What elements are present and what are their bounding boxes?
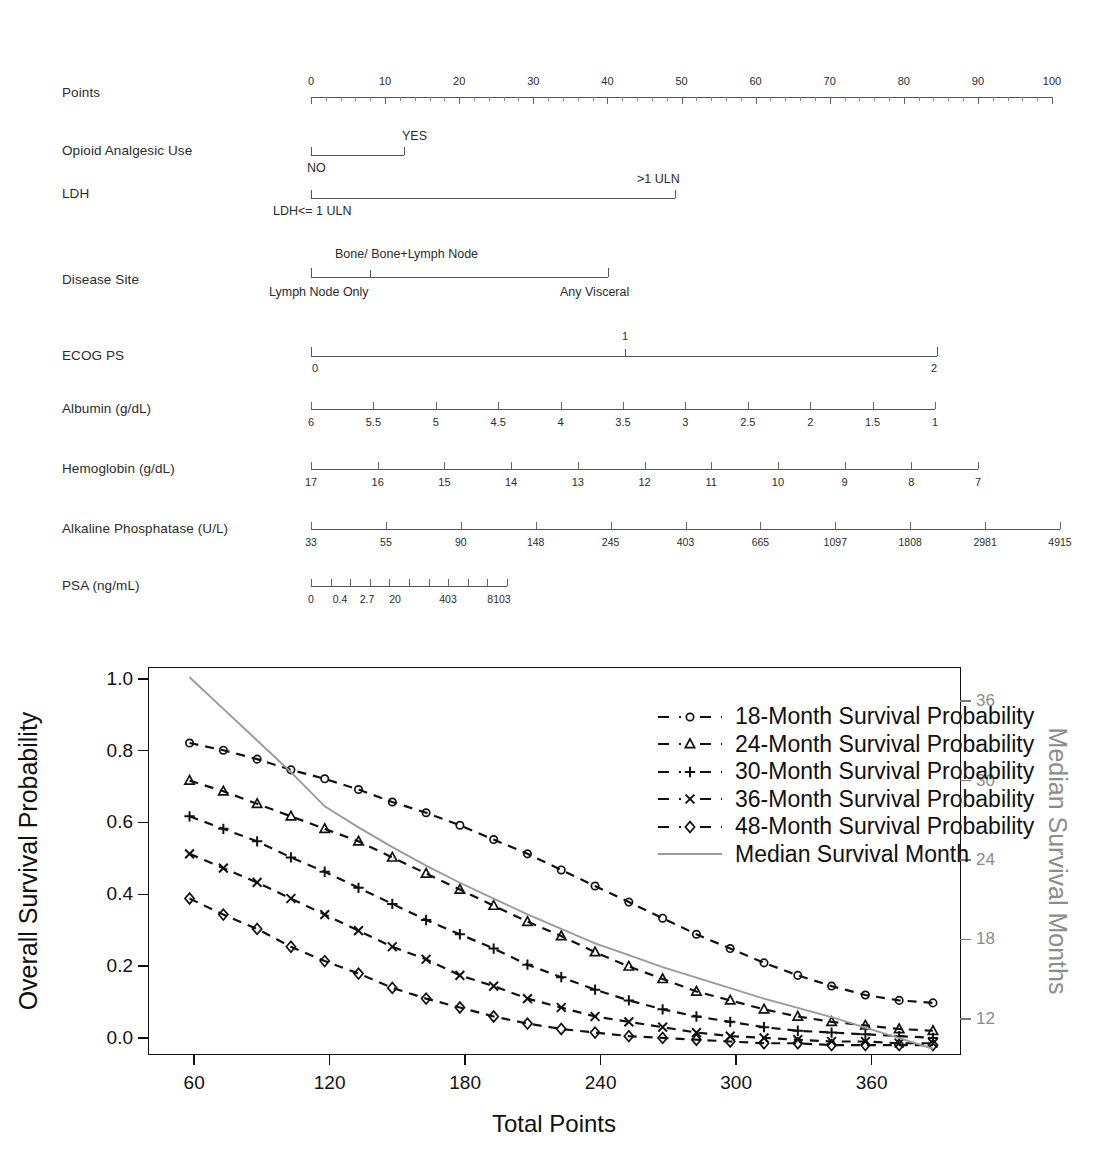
ecog-ps-label-0: 0 xyxy=(312,362,318,374)
points-minor-tick xyxy=(1022,97,1023,101)
data-point-plus xyxy=(455,929,465,939)
hemoglobin-tick-label: 15 xyxy=(438,476,450,488)
alp-tick-label: 55 xyxy=(380,536,392,548)
y-tick-label: 0.0 xyxy=(107,1027,133,1049)
legend-item[interactable]: 24-Month Survival Probability xyxy=(654,731,1034,759)
data-point-triangle xyxy=(320,824,329,833)
albumin-tick-label: 4 xyxy=(558,416,564,428)
opioid-axis-line xyxy=(311,155,404,156)
data-point-triangle xyxy=(624,961,633,970)
x-tick-label: 180 xyxy=(449,1072,481,1094)
points-minor-tick xyxy=(355,97,356,101)
data-point-cross xyxy=(455,971,464,980)
legend-item[interactable]: 30-Month Survival Probability xyxy=(654,758,1034,786)
albumin-tick xyxy=(685,402,686,409)
data-point-plus xyxy=(387,899,397,909)
opioid-label-yes: YES xyxy=(402,129,427,143)
albumin-tick xyxy=(748,402,749,409)
legend-marker-triangle-icon xyxy=(654,733,726,755)
points-minor-tick xyxy=(504,97,505,101)
hemoglobin-tick xyxy=(578,462,579,469)
hemoglobin-tick-label: 16 xyxy=(372,476,384,488)
nomogram-panel: Points Opioid Analgesic Use LDH Disease … xyxy=(0,0,1113,640)
points-minor-tick xyxy=(948,97,949,101)
data-point-plus xyxy=(488,943,498,953)
legend-item[interactable]: 36-Month Survival Probability xyxy=(654,786,1034,814)
albumin-tick xyxy=(373,402,374,409)
legend-label: 18-Month Survival Probability xyxy=(735,703,1034,730)
y-tick-label: 0.8 xyxy=(107,740,133,762)
data-point-cross xyxy=(489,982,498,991)
ldh-right-cap xyxy=(675,190,676,198)
points-minor-tick xyxy=(963,97,964,101)
data-point-plus xyxy=(793,1026,803,1036)
ldh-label-low: LDH<= 1 ULN xyxy=(273,204,352,218)
legend-label: 36-Month Survival Probability xyxy=(735,786,1034,813)
points-minor-tick xyxy=(919,97,920,101)
legend-item[interactable]: 48-Month Survival Probability xyxy=(654,813,1034,841)
points-minor-tick xyxy=(1008,97,1009,101)
y-tick xyxy=(138,894,149,896)
alp-tick-label: 90 xyxy=(455,536,467,548)
hemoglobin-tick-label: 13 xyxy=(572,476,584,488)
x-tick-label: 60 xyxy=(184,1072,205,1094)
data-point-triangle xyxy=(726,995,735,1004)
opioid-label-no: NO xyxy=(307,161,326,175)
psa-tick xyxy=(389,579,390,586)
y-tick xyxy=(138,1037,149,1039)
data-point-plus xyxy=(725,1017,735,1027)
data-point-triangle xyxy=(489,901,498,910)
albumin-tick xyxy=(498,402,499,409)
hemoglobin-tick xyxy=(711,462,712,469)
albumin-tick-label: 1.5 xyxy=(865,416,880,428)
points-minor-tick xyxy=(1037,97,1038,101)
y2-tick xyxy=(960,700,971,702)
data-point-plus xyxy=(353,883,363,893)
points-minor-tick xyxy=(430,97,431,101)
alp-tick xyxy=(386,522,387,529)
points-minor-tick xyxy=(785,97,786,101)
x-tick-label: 300 xyxy=(720,1072,752,1094)
data-point-cross xyxy=(320,910,329,919)
y-tick xyxy=(138,822,149,824)
data-point-diamond xyxy=(354,968,363,979)
alp-tick-label: 33 xyxy=(305,536,317,548)
opioid-left-cap xyxy=(311,147,312,155)
points-minor-tick xyxy=(859,97,860,101)
alp-tick xyxy=(835,522,836,529)
points-minor-tick xyxy=(652,97,653,101)
legend-label: Median Survival Month xyxy=(735,841,969,868)
albumin-axis-line xyxy=(311,409,935,410)
alp-tick-label: 148 xyxy=(527,536,545,548)
points-major-tick xyxy=(830,97,831,104)
albumin-tick-label: 5.5 xyxy=(366,416,381,428)
data-point-plus xyxy=(252,836,262,846)
psa-tick xyxy=(370,579,371,586)
y-tick xyxy=(138,750,149,752)
data-point-triangle xyxy=(286,811,295,820)
psa-tick xyxy=(350,579,351,586)
points-minor-tick xyxy=(563,97,564,101)
disease-site-right-cap xyxy=(608,268,609,277)
albumin-tick-label: 6 xyxy=(308,416,314,428)
albumin-tick-label: 3.5 xyxy=(615,416,630,428)
points-major-tick xyxy=(682,97,683,104)
points-minor-tick xyxy=(889,97,890,101)
data-point-plus xyxy=(286,852,296,862)
data-point-cross xyxy=(219,864,228,873)
alp-tick-label: 1097 xyxy=(824,536,847,548)
points-tick-label: 70 xyxy=(824,75,836,87)
points-minor-tick xyxy=(696,97,697,101)
legend-item[interactable]: Median Survival Month xyxy=(654,841,1034,869)
points-tick-label: 40 xyxy=(601,75,613,87)
x-tick-label: 360 xyxy=(856,1072,888,1094)
data-point-cross xyxy=(185,849,194,858)
data-point-plus xyxy=(657,1004,667,1014)
legend-marker-cross-icon xyxy=(654,788,726,810)
y-tick-label: 1.0 xyxy=(107,668,133,690)
legend-marker-plus-icon xyxy=(654,761,726,783)
chart-legend: 18-Month Survival Probability24-Month Su… xyxy=(654,703,1034,868)
x-axis-title: Total Points xyxy=(492,1110,616,1138)
albumin-tick-label: 2.5 xyxy=(740,416,755,428)
legend-item[interactable]: 18-Month Survival Probability xyxy=(654,703,1034,731)
